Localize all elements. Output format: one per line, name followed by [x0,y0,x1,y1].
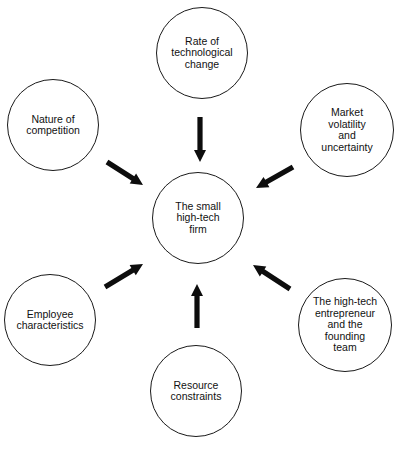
node-label-nature-of-competition: Nature of competition [22,114,84,137]
influence-diagram: The small high-tech firm Rate of technol… [0,0,400,450]
node-entrepreneur-founding-team: The high-tech entrepreneur and the found… [298,278,392,372]
node-market-volatility: Market volatility and uncertainty [300,83,394,177]
node-label-market-volatility: Market volatility and uncertainty [317,107,376,153]
arrow-market-to-firm [256,165,294,188]
node-label-resource-constraints: Resource constraints [167,380,226,403]
arrow-employee-to-firm [104,264,143,289]
node-nature-of-competition: Nature of competition [7,79,99,171]
arrow-tech-to-firm [194,117,206,162]
node-label-employee-characteristics: Employee characteristics [12,309,87,332]
node-employee-characteristics: Employee characteristics [4,274,96,366]
node-label-technological-change: Rate of technological change [167,36,236,71]
center-node-label: The small high-tech firm [171,201,225,236]
node-rate-of-technological-change: Rate of technological change [156,7,248,99]
node-resource-constraints: Resource constraints [150,345,242,437]
arrow-resource-to-firm [191,284,203,328]
arrow-entrepreneur-to-firm [253,265,291,291]
node-label-entrepreneur: The high-tech entrepreneur and the found… [309,296,381,354]
arrow-competition-to-firm [106,160,143,185]
center-node-small-high-tech-firm: The small high-tech firm [152,172,244,264]
